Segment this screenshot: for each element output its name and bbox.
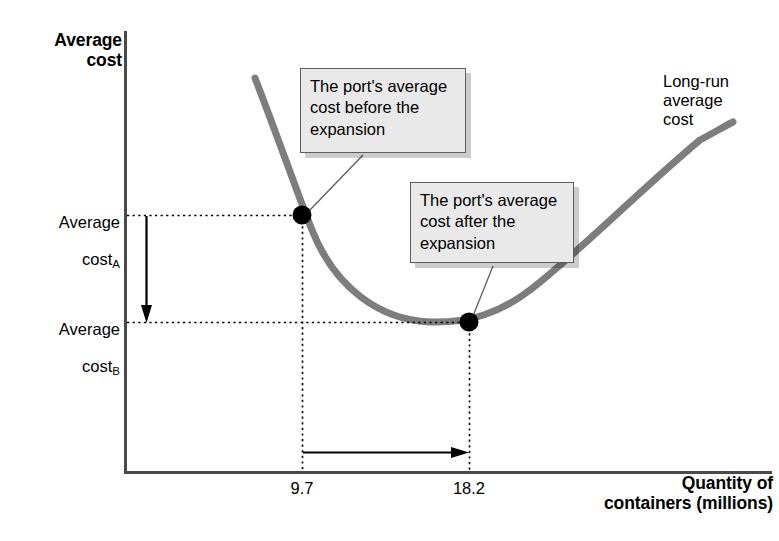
y-axis-label-cost-a-subscript: A <box>112 258 120 270</box>
cost-decrease-arrow <box>141 216 152 323</box>
y-axis-label-cost-b-line2: cost <box>82 357 112 375</box>
x-axis-tick-label-9-7: 9.7 <box>262 479 342 498</box>
y-axis-label-cost-a: Average costA <box>16 194 120 269</box>
y-axis-label-cost-b: Average costB <box>16 301 120 376</box>
data-point-a <box>293 206 312 225</box>
callout-before-expansion: The port's average cost before the expan… <box>300 68 466 153</box>
leader-line-before <box>309 155 363 211</box>
y-axis-label-cost-b-subscript: B <box>112 365 120 377</box>
callout-after-expansion: The port's average cost after the expans… <box>410 182 574 263</box>
leader-line-after <box>473 266 493 316</box>
curve-label-long-run-average-cost: Long-run average cost <box>663 72 729 129</box>
quantity-increase-arrow <box>303 447 469 458</box>
y-axis-label-cost-a-line2: cost <box>82 250 112 268</box>
y-axis-label-cost-b-line1: Average <box>59 320 120 338</box>
x-axis-title: Quantity of containers (millions) <box>541 474 773 513</box>
data-point-b <box>460 313 479 332</box>
y-axis-title: Average cost <box>18 31 122 70</box>
x-axis-tick-label-18-2: 18.2 <box>429 479 509 498</box>
figure-canvas: Average cost Quantity of containers (mil… <box>0 0 779 541</box>
y-axis-label-cost-a-line1: Average <box>59 213 120 231</box>
